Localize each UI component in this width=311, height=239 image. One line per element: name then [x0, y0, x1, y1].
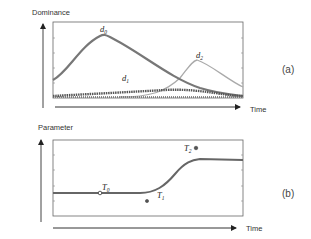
- panel-a: Dominance Time (a) d0 d1 d2: [32, 8, 294, 114]
- label-d0: d0: [100, 24, 107, 35]
- y-axis-label-parameter: Parameter: [38, 123, 74, 132]
- x-axis-label-time: Time: [250, 105, 266, 114]
- point-t1: [145, 199, 148, 202]
- x-axis-label-time: Time: [246, 224, 262, 233]
- point-t2: [194, 146, 198, 150]
- label-t1: T1: [157, 190, 165, 201]
- parameter-curve: [53, 159, 243, 193]
- label-d1: d1: [122, 73, 129, 84]
- panel-b: Parameter Time (b) T0 T1 T2: [38, 123, 294, 233]
- plot-frame: [53, 140, 243, 216]
- label-t2: T2: [184, 143, 192, 154]
- figure: Dominance Time (a) d0 d1 d2 Parameter: [0, 0, 311, 239]
- y-axis-label-dominance: Dominance: [32, 8, 70, 17]
- panel-tag-b: (b): [282, 188, 294, 199]
- panel-tag-a: (a): [282, 64, 294, 75]
- label-d2: d2: [196, 50, 203, 61]
- curve-d0: [53, 35, 243, 96]
- right-ticks: [53, 155, 243, 201]
- label-t0: T0: [102, 182, 110, 193]
